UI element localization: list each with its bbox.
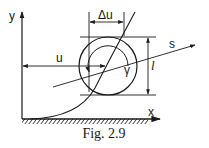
u-label: u [56, 51, 63, 65]
s-label: s [169, 37, 175, 51]
rotation-arc [88, 46, 128, 72]
figure-diagram: y x u Δu s l γ Fig. 2.9 [0, 0, 209, 148]
gamma-label: γ [124, 63, 130, 77]
profile-curve [30, 12, 135, 119]
x-axis-label: x [148, 105, 154, 119]
delta-u-label: Δu [98, 8, 113, 22]
y-axis-label: y [9, 9, 15, 23]
l-label: l [151, 58, 155, 73]
figure-caption: Fig. 2.9 [82, 126, 125, 141]
